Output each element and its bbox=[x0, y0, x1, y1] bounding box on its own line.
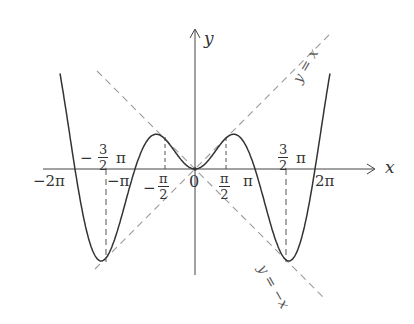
plot-canvas bbox=[0, 0, 414, 324]
origin-dot bbox=[193, 167, 197, 171]
tick-neg-three-half-pi: 3 2 bbox=[98, 143, 108, 172]
tick-neg-three-half-pi-sign: − bbox=[80, 151, 93, 166]
tick-neg-two-pi: −2π bbox=[33, 174, 65, 189]
tick-pi: π bbox=[243, 174, 253, 189]
x-axis-label: x bbox=[385, 159, 395, 176]
y-axis-label: y bbox=[204, 30, 214, 47]
tick-neg-half-pi: π 2 bbox=[158, 172, 169, 201]
origin-label: 0 bbox=[189, 174, 199, 190]
tick-three-half-pi: 3 2 bbox=[278, 143, 288, 172]
line-y-eq-neg-x bbox=[97, 71, 325, 299]
function-graph: x y 0 y = x y = −x −2π −π π 2π − 3 2 π 3… bbox=[0, 0, 414, 324]
tick-three-half-pi-pi: π bbox=[296, 151, 306, 166]
tick-neg-half-pi-sign: − bbox=[143, 181, 156, 196]
tick-neg-pi: −π bbox=[107, 174, 129, 189]
tick-half-pi: π 2 bbox=[219, 172, 230, 201]
tick-two-pi: 2π bbox=[315, 174, 334, 189]
tick-neg-three-half-pi-pi: π bbox=[116, 151, 126, 166]
